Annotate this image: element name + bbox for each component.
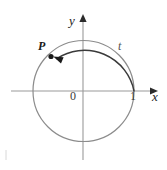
origin-label: 0 bbox=[70, 90, 76, 102]
point-P-marker bbox=[48, 54, 53, 59]
y-axis-arrowhead-icon bbox=[79, 14, 86, 22]
figure-canvas bbox=[0, 0, 167, 170]
arc-path bbox=[57, 50, 134, 91]
y-axis-label: y bbox=[69, 14, 75, 27]
arc-parameter-label: t bbox=[118, 40, 121, 52]
unit-circle-figure: y x P t 0 1 bbox=[0, 0, 167, 170]
unit-tick-label: 1 bbox=[130, 90, 136, 102]
point-P-label: P bbox=[38, 40, 45, 52]
arc-direction-arrowhead-icon bbox=[53, 57, 63, 64]
x-axis-label: x bbox=[152, 90, 158, 103]
